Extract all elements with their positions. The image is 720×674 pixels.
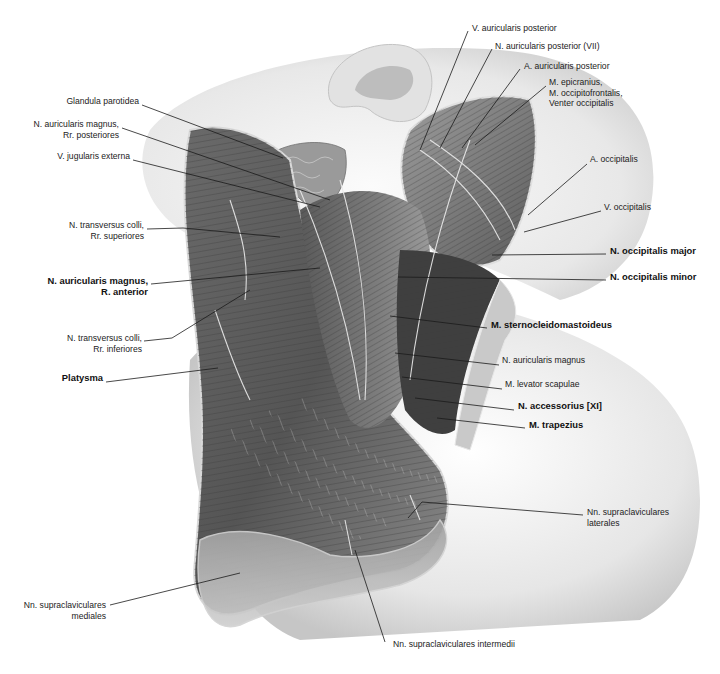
label-m-levator-scapulae: M. levator scapulae: [505, 379, 580, 390]
label-v-jugularis-externa: V. jugularis externa: [57, 151, 130, 162]
label-nn-supraclaviculares-laterales: Nn. supraclaviculares laterales: [587, 507, 669, 528]
label-m-trapezius: M. trapezius: [529, 419, 583, 430]
label-n-auricularis-magnus-rr-posteriores: N. auricularis magnus, Rr. posteriores: [34, 119, 120, 140]
label-v-occipitalis: V. occipitalis: [604, 202, 651, 213]
anatomical-figure: Glandula parotidea N. auricularis magnus…: [0, 0, 720, 674]
label-n-auricularis-magnus-r-anterior: N. auricularis magnus, R. anterior: [47, 275, 148, 297]
label-a-occipitalis: A. occipitalis: [590, 154, 638, 165]
label-m-sternocleidomastoideus: M. sternocleidomastoideus: [491, 319, 612, 330]
label-n-auricularis-posterior-vii: N. auricularis posterior (VII): [495, 41, 600, 52]
label-nn-supraclaviculares-mediales: Nn. supraclaviculares mediales: [24, 600, 106, 621]
label-n-accessorius-xi: N. accessorius [XI]: [518, 400, 602, 411]
label-a-auricularis-posterior: A. auricularis posterior: [524, 61, 610, 72]
label-n-occipitalis-minor: N. occipitalis minor: [610, 271, 696, 282]
label-platysma: Platysma: [62, 372, 103, 383]
label-n-occipitalis-major: N. occipitalis major: [610, 245, 696, 256]
label-m-epicranius: M. epicranius, M. occipitofrontalis, Ven…: [549, 77, 623, 109]
label-nn-supraclaviculares-intermedii: Nn. supraclaviculares intermedii: [393, 639, 515, 650]
label-v-auricularis-posterior: V. auricularis posterior: [472, 23, 557, 34]
label-n-transversus-colli-rr-inferiores: N. transversus colli, Rr. inferiores: [67, 333, 142, 354]
label-n-transversus-colli-rr-superiores: N. transversus colli, Rr. superiores: [69, 220, 144, 241]
label-n-auricularis-magnus: N. auricularis magnus: [502, 355, 585, 366]
label-glandula-parotidea: Glandula parotidea: [66, 96, 139, 107]
